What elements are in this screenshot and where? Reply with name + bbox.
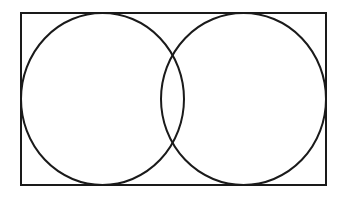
- venn-diagram: [0, 0, 346, 198]
- universe-rectangle: [21, 13, 326, 185]
- set-a-circle: [21, 13, 184, 185]
- set-b-circle: [161, 13, 326, 185]
